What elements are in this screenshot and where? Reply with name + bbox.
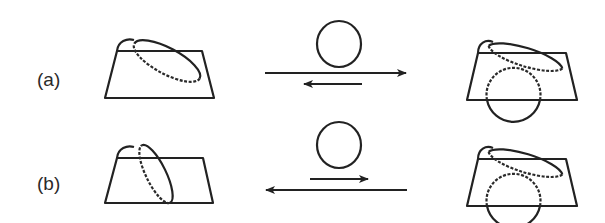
row-a-label: (a) (37, 69, 60, 90)
row-b-final-state (467, 143, 577, 223)
trapezoid-block (467, 159, 577, 206)
loop-ellipse-front (142, 141, 179, 203)
free-circle (317, 122, 361, 168)
row-a-transition (265, 21, 406, 84)
row-b-label: (b) (37, 173, 60, 194)
row-a-final-state (467, 37, 577, 122)
loop-ellipse-back (486, 152, 562, 183)
circle-hidden-part (487, 174, 541, 206)
hump-cap (478, 147, 493, 159)
circle-visible-part (487, 206, 540, 223)
loop-ellipse-back (133, 145, 170, 207)
hump-cap (478, 41, 493, 53)
row-b: (b) (37, 122, 577, 223)
hump-cap (117, 146, 134, 158)
loop-ellipse-back (486, 46, 562, 77)
loop-ellipse-front (134, 32, 205, 78)
hump-cap (117, 39, 134, 51)
row-a: (a) (37, 21, 577, 122)
trapezoid-block (105, 158, 213, 203)
row-b-transition (266, 122, 407, 190)
trapezoid-block (467, 53, 577, 100)
free-circle (317, 21, 361, 67)
diagram-canvas: (a) (0, 0, 605, 223)
row-a-initial-state (105, 32, 214, 98)
row-b-initial-state (105, 141, 213, 207)
circle-visible-part (487, 100, 540, 122)
circle-hidden-part (487, 68, 541, 100)
trapezoid-block (105, 51, 214, 98)
